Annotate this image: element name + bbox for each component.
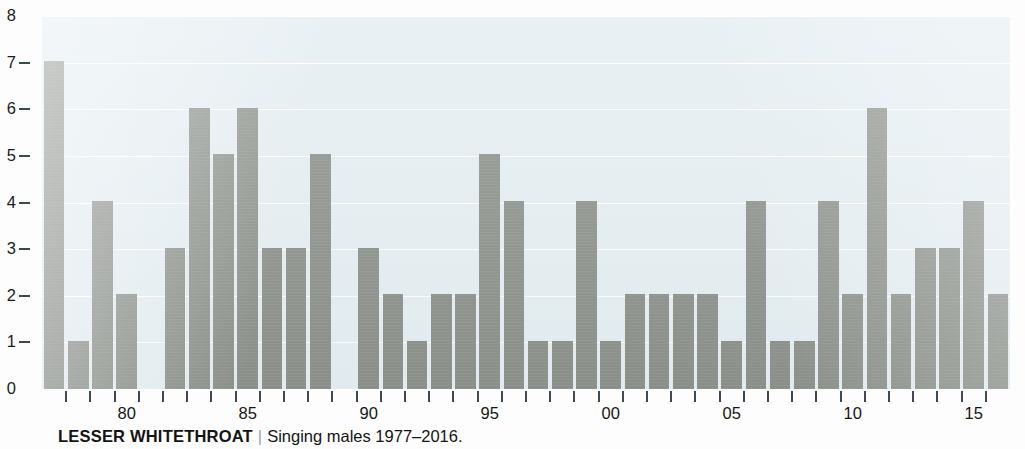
- bar: [867, 108, 887, 389]
- x-tick-mark: [936, 391, 938, 402]
- bar: [915, 248, 935, 389]
- bar: [891, 294, 911, 389]
- bar: [286, 248, 306, 389]
- x-tick-mark: [428, 391, 430, 402]
- bar: [721, 341, 741, 389]
- x-tick-label-95: 95: [481, 404, 499, 423]
- caption-subtitle: Singing males 1977–2016.: [267, 427, 462, 445]
- x-tick-mark: [767, 391, 769, 402]
- x-tick-mark: [912, 391, 914, 402]
- bar: [455, 294, 475, 389]
- bar: [92, 201, 112, 389]
- bar: [988, 294, 1008, 389]
- y-tick-label-5: 5: [0, 147, 16, 164]
- bar: [383, 294, 403, 389]
- x-tick-label-10: 10: [844, 404, 862, 423]
- x-tick-mark: [283, 391, 285, 402]
- x-tick-mark: [815, 391, 817, 402]
- bar: [213, 154, 233, 389]
- x-tick-mark: [404, 391, 406, 402]
- x-tick-mark: [138, 391, 140, 402]
- x-tick-mark: [380, 391, 382, 402]
- x-tick-mark: [210, 391, 212, 402]
- x-tick-mark: [791, 391, 793, 402]
- x-tick-mark: [719, 391, 721, 402]
- x-tick-mark: [65, 391, 67, 402]
- bar: [116, 294, 136, 389]
- x-tick-label-05: 05: [723, 404, 741, 423]
- bar: [818, 201, 838, 389]
- chart-figure: 012345678 8085909500051015 LESSER WHITET…: [0, 0, 1025, 449]
- x-tick-mark: [114, 391, 116, 402]
- bar: [262, 248, 282, 389]
- x-tick-mark: [549, 391, 551, 402]
- y-tick-label-0: 0: [0, 380, 16, 397]
- y-tick-mark-3: [19, 248, 30, 250]
- y-tick-mark-5: [19, 155, 30, 157]
- x-tick-mark: [840, 391, 842, 402]
- bar: [770, 341, 790, 389]
- bar: [68, 341, 88, 389]
- x-tick-label-90: 90: [360, 404, 378, 423]
- y-tick-mark-6: [19, 108, 30, 110]
- caption-divider: |: [253, 427, 267, 445]
- y-tick-label-8: 8: [0, 7, 16, 24]
- x-tick-mark: [598, 391, 600, 402]
- x-tick-mark: [888, 391, 890, 402]
- x-tick-mark: [961, 391, 963, 402]
- bar: [794, 341, 814, 389]
- bar: [673, 294, 693, 389]
- bar: [625, 294, 645, 389]
- bar: [310, 154, 330, 389]
- y-tick-label-4: 4: [0, 194, 16, 211]
- x-tick-mark: [743, 391, 745, 402]
- bar-series: [42, 16, 1010, 389]
- x-tick-mark: [186, 391, 188, 402]
- x-tick-mark: [694, 391, 696, 402]
- x-tick-mark: [259, 391, 261, 402]
- bar: [44, 61, 64, 389]
- x-tick-label-15: 15: [965, 404, 983, 423]
- caption-species: LESSER WHITETHROAT: [58, 427, 253, 445]
- y-tick-label-7: 7: [0, 54, 16, 71]
- bar: [649, 294, 669, 389]
- y-tick-label-1: 1: [0, 333, 16, 350]
- x-tick-mark: [501, 391, 503, 402]
- y-tick-mark-7: [19, 62, 30, 64]
- y-axis: 012345678: [0, 0, 42, 405]
- y-tick-mark-1: [19, 341, 30, 343]
- x-tick-mark: [235, 391, 237, 402]
- plot-area: [42, 16, 1010, 389]
- x-tick-mark: [646, 391, 648, 402]
- y-tick-label-2: 2: [0, 287, 16, 304]
- x-tick-label-00: 00: [602, 404, 620, 423]
- y-tick-mark-2: [19, 295, 30, 297]
- x-tick-mark: [864, 391, 866, 402]
- bar: [358, 248, 378, 389]
- chart-caption: LESSER WHITETHROAT|Singing males 1977–20…: [58, 427, 463, 446]
- bar: [407, 341, 427, 389]
- x-tick-mark: [452, 391, 454, 402]
- x-tick-label-85: 85: [239, 404, 257, 423]
- bar: [504, 201, 524, 389]
- x-tick-label-80: 80: [118, 404, 136, 423]
- x-tick-mark: [670, 391, 672, 402]
- bar: [165, 248, 185, 389]
- x-tick-mark: [573, 391, 575, 402]
- bar: [697, 294, 717, 389]
- x-tick-mark: [477, 391, 479, 402]
- x-tick-mark: [622, 391, 624, 402]
- x-tick-mark: [525, 391, 527, 402]
- bar: [746, 201, 766, 389]
- bar: [842, 294, 862, 389]
- bar: [479, 154, 499, 389]
- bar: [939, 248, 959, 389]
- bar: [963, 201, 983, 389]
- bar: [431, 294, 451, 389]
- bar: [600, 341, 620, 389]
- bar: [528, 341, 548, 389]
- y-tick-mark-4: [19, 202, 30, 204]
- x-tick-mark: [89, 391, 91, 402]
- bar: [552, 341, 572, 389]
- bar: [576, 201, 596, 389]
